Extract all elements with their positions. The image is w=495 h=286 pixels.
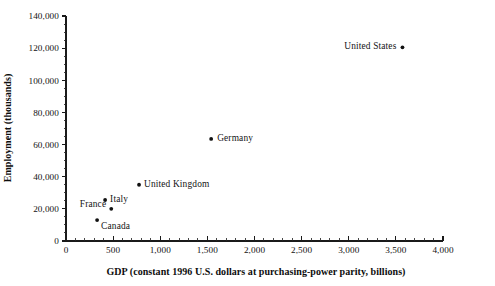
data-point-labels: CanadaFranceItalyUnited KingdomGermanyUn… xyxy=(80,41,397,231)
data-point-label: Germany xyxy=(217,133,253,143)
data-point-label: United States xyxy=(344,41,396,51)
y-tick-label: 80,000 xyxy=(33,108,59,118)
data-point-label: Italy xyxy=(110,194,128,204)
data-point-label: Canada xyxy=(101,221,131,231)
data-point-marker xyxy=(109,207,113,211)
y-tick-label: 100,000 xyxy=(28,76,59,86)
x-tick-label: 500 xyxy=(106,245,120,255)
data-point-label: United Kingdom xyxy=(144,179,210,189)
data-point-marker xyxy=(401,45,405,49)
y-tick-label: 0 xyxy=(54,236,59,246)
y-tick-label: 120,000 xyxy=(28,43,59,53)
x-axis-title: GDP (constant 1996 U.S. dollars at purch… xyxy=(107,266,406,278)
data-point-marker xyxy=(209,137,213,141)
x-tick-label: 0 xyxy=(64,245,69,255)
data-point-marker xyxy=(95,218,99,222)
scatter-chart: 020,00040,00060,00080,000100,000120,0001… xyxy=(0,0,495,286)
x-tick-label: 3,500 xyxy=(385,245,406,255)
y-tick-label: 60,000 xyxy=(33,140,59,150)
x-tick-label: 2,500 xyxy=(291,245,312,255)
y-axis-title: Employment (thousands) xyxy=(2,74,14,183)
x-tick-label: 2,000 xyxy=(244,245,265,255)
x-tick-label: 1,000 xyxy=(150,245,171,255)
y-tick-label: 140,000 xyxy=(28,11,59,21)
x-tick-label: 4,000 xyxy=(432,245,453,255)
data-point-marker xyxy=(137,183,141,187)
y-tick-label: 40,000 xyxy=(33,172,59,182)
x-tick-label: 1,500 xyxy=(197,245,218,255)
chart-canvas: 020,00040,00060,00080,000100,000120,0001… xyxy=(0,0,495,286)
x-tick-label: 3,000 xyxy=(338,245,359,255)
y-tick-label: 20,000 xyxy=(33,204,59,214)
data-point-label: France xyxy=(80,199,106,209)
